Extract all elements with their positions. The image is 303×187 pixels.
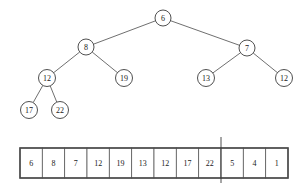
tree-node-label: 12 bbox=[43, 74, 51, 83]
tree-edges bbox=[33, 21, 277, 103]
array-cell: 19 bbox=[109, 148, 131, 178]
tree-node-label: 12 bbox=[280, 74, 288, 83]
tree-edge bbox=[92, 52, 117, 73]
array-cell-value: 19 bbox=[117, 159, 125, 168]
tree-node-label: 7 bbox=[245, 44, 249, 53]
array-cell-value: 12 bbox=[161, 159, 169, 168]
array-cell: 5 bbox=[221, 148, 243, 178]
array-cell-value: 22 bbox=[206, 159, 214, 168]
array-cell: 4 bbox=[243, 148, 265, 178]
tree-edge bbox=[171, 21, 240, 46]
tree-nodes: 687121913121722 bbox=[21, 10, 293, 119]
tree-edge bbox=[33, 85, 43, 102]
array-cell-value: 5 bbox=[230, 159, 234, 168]
tree-node: 22 bbox=[52, 102, 69, 119]
array-cell: 1 bbox=[266, 148, 288, 178]
array-cell-value: 17 bbox=[184, 159, 192, 168]
tree-node: 17 bbox=[21, 102, 38, 119]
tree-node-label: 17 bbox=[25, 106, 33, 115]
tree-node: 6 bbox=[155, 10, 171, 26]
array-cell: 22 bbox=[199, 148, 221, 178]
tree-node-label: 13 bbox=[202, 74, 210, 83]
array-cell-value: 13 bbox=[139, 159, 147, 168]
tree-node: 12 bbox=[276, 70, 293, 87]
array-cell-value: 7 bbox=[74, 159, 78, 168]
array-cell-value: 6 bbox=[29, 159, 33, 168]
array-cell-value: 4 bbox=[253, 159, 257, 168]
tree-edge bbox=[253, 53, 277, 73]
heap-figure: 687121913121722 687121913121722541 bbox=[0, 0, 303, 187]
array-cell: 12 bbox=[87, 148, 109, 178]
tree-edge bbox=[54, 52, 80, 73]
tree-edge bbox=[93, 21, 155, 44]
array-cell: 17 bbox=[176, 148, 198, 178]
array-cell: 6 bbox=[20, 148, 42, 178]
tree-node: 13 bbox=[198, 70, 215, 87]
tree-node-label: 22 bbox=[56, 106, 64, 115]
array-cell: 7 bbox=[65, 148, 87, 178]
array-cell-value: 8 bbox=[52, 159, 56, 168]
array-cell: 13 bbox=[132, 148, 154, 178]
array-cell: 12 bbox=[154, 148, 176, 178]
array-cell-value: 12 bbox=[94, 159, 102, 168]
tree-node-label: 8 bbox=[84, 43, 88, 52]
tree-node-label: 6 bbox=[161, 14, 165, 23]
tree-node: 8 bbox=[78, 39, 94, 55]
tree-edge bbox=[213, 53, 241, 73]
array-cell-value: 1 bbox=[275, 159, 279, 168]
array-representation: 687121913121722541 bbox=[20, 137, 288, 183]
tree-node: 12 bbox=[39, 70, 56, 87]
tree-node-label: 19 bbox=[120, 74, 128, 83]
tree-node: 7 bbox=[239, 40, 255, 56]
heap-diagram-canvas: 687121913121722 687121913121722541 bbox=[0, 0, 303, 187]
tree-edge bbox=[50, 86, 57, 102]
tree-node: 19 bbox=[116, 70, 133, 87]
array-cell: 8 bbox=[42, 148, 64, 178]
